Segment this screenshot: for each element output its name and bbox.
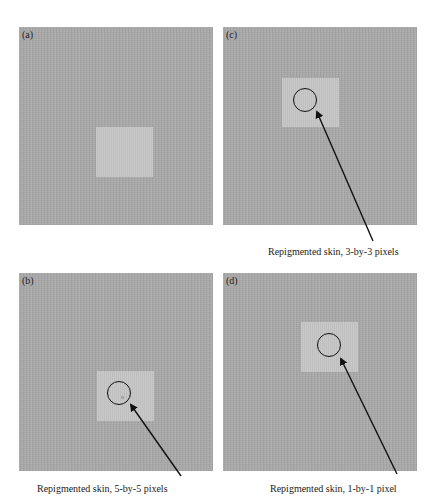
arrow-d: [341, 359, 397, 474]
caption-d: Repigmented skin, 1-by-1 pixel: [270, 483, 397, 494]
arrow-c: [317, 112, 373, 241]
arrow-b: [131, 405, 181, 476]
caption-c: Repigmented skin, 3-by-3 pixels: [268, 246, 399, 257]
caption-b: Repigmented skin, 5-by-5 pixels: [37, 483, 168, 494]
